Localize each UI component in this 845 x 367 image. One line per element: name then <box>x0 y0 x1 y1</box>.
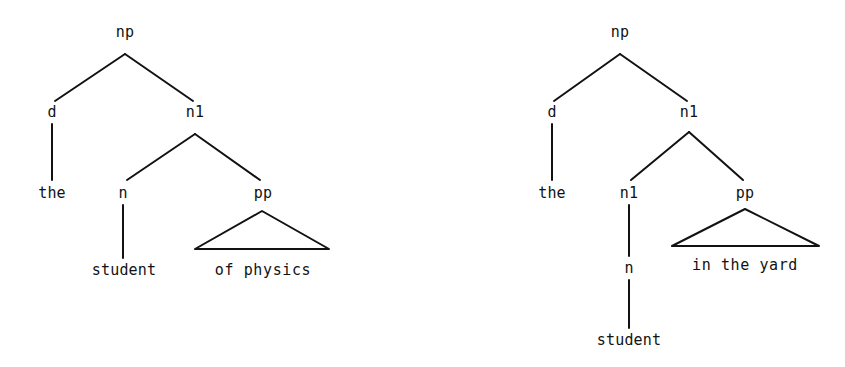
edge-np-n1 <box>620 54 687 101</box>
tree-right-triangle-label-in-the-yard: in the yard <box>692 258 798 273</box>
tree-right-node-n: n <box>624 261 633 276</box>
edge-n1-n1 <box>631 132 689 180</box>
tree-right-node-d: d <box>547 105 556 120</box>
figure-canvas: np d n1 the n pp student of physics np <box>0 0 845 367</box>
tree-right-edges <box>0 0 845 367</box>
tree-right-leaf-the: the <box>538 186 566 201</box>
tree-right-node-n1-lower: n1 <box>620 186 638 201</box>
edge-np-d <box>554 54 620 101</box>
tree-right-node-pp: pp <box>736 186 754 201</box>
edge-n1-pp <box>689 132 743 180</box>
tree-right-node-n1-upper: n1 <box>680 105 698 120</box>
tree-right-node-np: np <box>611 25 629 40</box>
pp-triangle-right <box>672 209 819 246</box>
tree-right-leaf-student: student <box>597 333 662 348</box>
